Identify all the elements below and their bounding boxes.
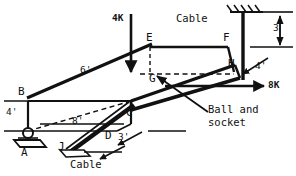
statics-diagram-figure: A B C D E F G H J 6' 4' 8' 3' 4' 3 4K 8K… <box>0 0 296 176</box>
dimension-label-8ft: 8' <box>72 116 83 126</box>
point-label-H: H <box>228 58 235 70</box>
point-label-E: E <box>146 32 153 44</box>
force-label-4k: 4K <box>112 13 123 23</box>
socket-base-plate <box>14 140 46 147</box>
point-label-A: A <box>21 147 28 159</box>
dimension-label-4ft-right: 4' <box>255 61 266 71</box>
annotation-ball-and-socket-line2: socket <box>208 117 246 128</box>
point-label-G: G <box>149 73 156 85</box>
point-label-D: D <box>105 130 112 142</box>
annotation-cable-top: Cable <box>176 13 208 24</box>
cable-J-C-thick <box>70 105 134 152</box>
member-H-joint <box>235 65 240 78</box>
edge-D-C <box>117 124 131 131</box>
point-label-J: J <box>58 141 65 153</box>
dimension-label-4ft-left: 4' <box>6 107 17 117</box>
force-label-8k: 8K <box>268 80 279 90</box>
ball-joint-circle <box>23 128 33 138</box>
dimension-3-vertical <box>250 12 293 47</box>
dimension-label-3ft-bottom: 3' <box>118 132 129 142</box>
member-spacer <box>27 102 131 103</box>
point-label-C: C <box>126 107 133 119</box>
dimension-label-6ft: 6' <box>80 65 91 75</box>
diagram-canvas <box>0 0 296 176</box>
annotation-cable-bottom: Cable <box>70 159 102 170</box>
dimension-label-3-vertical: 3 <box>273 23 279 33</box>
annotation-ball-and-socket-line1: Ball and <box>208 104 259 115</box>
dimension-3ft-bottom <box>84 131 186 159</box>
point-label-B: B <box>18 86 25 98</box>
point-label-F: F <box>223 32 230 44</box>
